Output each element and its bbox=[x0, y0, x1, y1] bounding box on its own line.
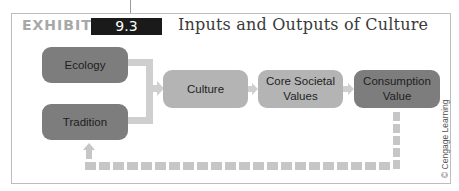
exhibit-title: Inputs and Outputs of Culture bbox=[178, 15, 428, 34]
feedback-dash bbox=[393, 148, 400, 157]
node-core-societal-values: Core Societal Values bbox=[258, 70, 343, 108]
node-ecology: Ecology bbox=[42, 47, 128, 83]
frame-tick bbox=[130, 0, 131, 14]
node-consumption-value: Consumption Value bbox=[354, 70, 440, 108]
exhibit-label: EXHIBIT bbox=[22, 17, 92, 33]
copyright-credit: © Cengage Learning bbox=[440, 99, 450, 178]
exhibit-number-badge: 9.3 bbox=[91, 18, 162, 35]
arrow-up-icon bbox=[83, 143, 95, 151]
node-culture: Culture bbox=[163, 70, 248, 108]
feedback-horizontal-dashes bbox=[85, 162, 393, 170]
feedback-up-stem bbox=[86, 150, 92, 159]
node-tradition: Tradition bbox=[42, 104, 128, 140]
feedback-dash bbox=[393, 124, 400, 133]
feedback-dash bbox=[393, 160, 400, 169]
connector-vertical bbox=[146, 59, 153, 124]
feedback-dash bbox=[393, 112, 400, 121]
feedback-dash bbox=[393, 136, 400, 145]
